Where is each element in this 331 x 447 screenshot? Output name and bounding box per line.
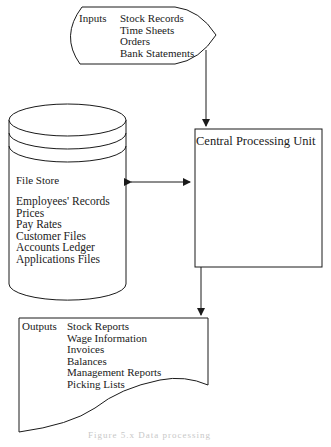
inputs-item: Orders <box>120 36 194 48</box>
inputs-label: Inputs <box>79 13 107 25</box>
figure-caption: Figure 5.x Data processing <box>88 430 211 440</box>
outputs-label: Outputs <box>22 321 57 333</box>
file-store-item: Applications Files <box>16 254 110 266</box>
outputs-item: Management Reports <box>67 367 161 379</box>
inputs-item: Bank Statements <box>120 48 194 60</box>
outputs-list: Stock Reports Wage Information Invoices … <box>67 321 161 390</box>
file-store-item: Accounts Ledger <box>16 242 110 254</box>
file-store-list: Employees' Records Prices Pay Rates Cust… <box>16 196 110 265</box>
file-store-item: Employees' Records <box>16 196 110 208</box>
outputs-item: Picking Lists <box>67 379 161 391</box>
outputs-item: Stock Reports <box>67 321 161 333</box>
cpu-box <box>195 129 322 267</box>
inputs-item: Stock Records <box>120 13 194 25</box>
file-store-item: Pay Rates <box>16 219 110 231</box>
file-store-label: File Store <box>16 175 59 187</box>
cpu-label: Central Processing Unit <box>196 136 315 148</box>
outputs-item: Invoices <box>67 344 161 356</box>
inputs-list: Stock Records Time Sheets Orders Bank St… <box>120 13 194 59</box>
